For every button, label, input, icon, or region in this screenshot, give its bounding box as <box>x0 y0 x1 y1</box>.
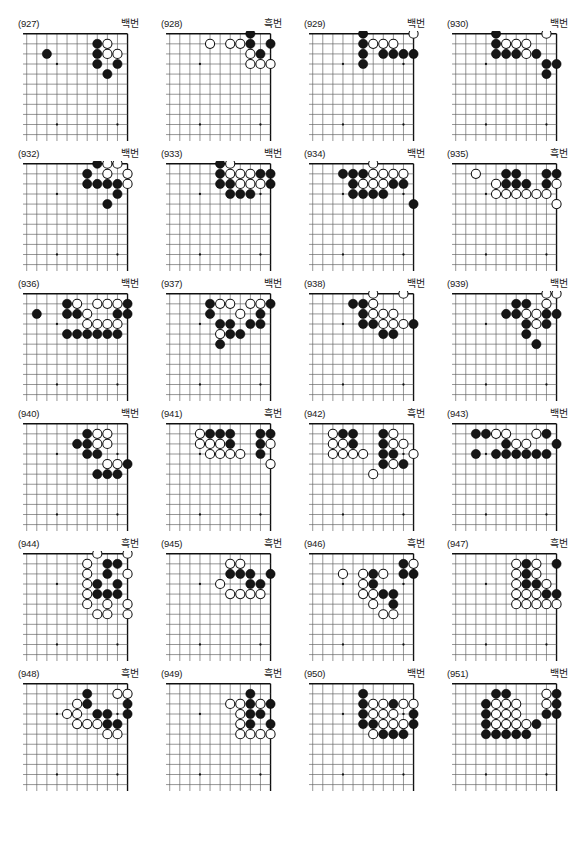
white-stone <box>369 291 378 298</box>
star-point <box>56 773 58 775</box>
white-stone <box>103 439 112 448</box>
black-stone <box>409 200 418 209</box>
star-point <box>545 773 547 775</box>
black-stone <box>246 31 255 38</box>
white-stone <box>542 579 551 588</box>
black-stone <box>522 299 531 308</box>
white-stone <box>359 449 368 458</box>
white-stone <box>123 179 132 188</box>
star-point <box>545 383 547 385</box>
problem-grid: (927)백번(928)흑번(929)백번(930)백번(932)백번(933)… <box>8 14 578 794</box>
black-stone <box>103 200 112 209</box>
black-stone <box>103 590 112 599</box>
white-stone <box>103 460 112 469</box>
star-point <box>56 713 58 715</box>
black-stone <box>552 169 561 178</box>
black-stone <box>256 439 265 448</box>
star-point <box>402 643 404 645</box>
white-stone <box>389 319 398 328</box>
white-stone <box>73 709 82 718</box>
black-stone <box>481 720 490 729</box>
problem-diagram: (935)흑번 <box>437 144 578 274</box>
problem-number: (950) <box>304 669 325 679</box>
turn-indicator: 흑번 <box>264 19 282 29</box>
board-container <box>447 551 568 661</box>
black-stone <box>409 49 418 58</box>
white-stone <box>369 161 378 168</box>
problem-number: (929) <box>304 19 325 29</box>
problem-diagram: (930)백번 <box>437 14 578 144</box>
white-stone <box>83 569 92 578</box>
white-stone <box>205 39 214 48</box>
white-stone <box>236 559 245 568</box>
white-stone <box>369 709 378 718</box>
problem-number: (928) <box>161 19 182 29</box>
black-stone <box>522 559 531 568</box>
white-stone <box>338 449 347 458</box>
star-point <box>116 383 118 385</box>
white-stone <box>369 470 378 479</box>
black-stone <box>409 709 418 718</box>
white-stone <box>226 699 235 708</box>
turn-indicator: 백번 <box>550 19 568 29</box>
white-stone <box>369 169 378 178</box>
black-stone <box>103 470 112 479</box>
problem-diagram: (937)백번 <box>151 274 292 404</box>
problem-diagram: (927)백번 <box>8 14 149 144</box>
board-container <box>304 31 425 141</box>
black-stone <box>389 600 398 609</box>
black-stone <box>246 39 255 48</box>
turn-indicator: 흑번 <box>550 539 568 549</box>
black-stone <box>389 730 398 739</box>
black-stone <box>491 31 500 38</box>
black-stone <box>205 299 214 308</box>
black-stone <box>246 579 255 588</box>
white-stone <box>512 709 521 718</box>
white-stone <box>103 299 112 308</box>
white-stone <box>502 39 511 48</box>
turn-indicator: 백번 <box>264 149 282 159</box>
board-container <box>447 681 568 791</box>
problem-number: (930) <box>447 19 468 29</box>
black-stone <box>93 709 102 718</box>
star-point <box>342 323 344 325</box>
problem-header: (950)백번 <box>304 664 425 679</box>
white-stone <box>369 299 378 308</box>
black-stone <box>266 299 275 308</box>
black-stone <box>256 319 265 328</box>
white-stone <box>359 579 368 588</box>
board-container <box>304 161 425 271</box>
turn-indicator: 흑번 <box>264 539 282 549</box>
go-board <box>161 551 282 661</box>
black-stone <box>359 699 368 708</box>
star-point <box>116 513 118 515</box>
white-stone <box>226 169 235 178</box>
star-point <box>545 253 547 255</box>
black-stone <box>409 720 418 729</box>
white-stone <box>379 720 388 729</box>
black-stone <box>369 720 378 729</box>
go-board <box>18 421 139 531</box>
black-stone <box>552 689 561 698</box>
black-stone <box>379 49 388 58</box>
board-container <box>447 31 568 141</box>
black-stone <box>359 31 368 38</box>
black-stone <box>542 169 551 178</box>
go-board <box>18 161 139 271</box>
black-stone <box>246 689 255 698</box>
black-stone <box>62 299 71 308</box>
black-stone <box>103 559 112 568</box>
white-stone <box>73 299 82 308</box>
star-point <box>56 253 58 255</box>
white-stone <box>205 449 214 458</box>
problem-number: (927) <box>18 19 39 29</box>
white-stone <box>379 610 388 619</box>
white-stone <box>236 699 245 708</box>
star-point <box>485 383 487 385</box>
black-stone <box>113 179 122 188</box>
problem-number: (932) <box>18 149 39 159</box>
white-stone <box>103 600 112 609</box>
star-point <box>199 643 201 645</box>
white-stone <box>532 569 541 578</box>
go-board <box>447 31 568 141</box>
